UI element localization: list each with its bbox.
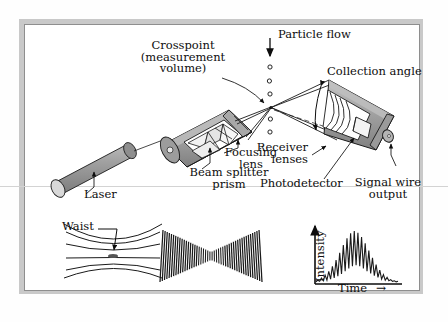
label-crosspoint: Crosspoint(measurementvolume) xyxy=(124,40,242,75)
fringe-line xyxy=(225,246,226,267)
fringe-line xyxy=(244,237,246,275)
fringe-line xyxy=(201,248,202,265)
fringe-line xyxy=(223,247,224,266)
fringe-line xyxy=(187,242,188,271)
label-waist: Waist xyxy=(62,221,94,233)
label-signal-wire-output: Signal wireoutput xyxy=(350,177,426,200)
fringe-line xyxy=(176,237,178,275)
label-laser: Laser xyxy=(84,189,117,201)
fringe-line xyxy=(233,242,234,271)
fringe-line xyxy=(192,244,193,269)
fringe-line xyxy=(183,240,185,272)
fringe-line xyxy=(196,246,197,267)
leader-crosspoint xyxy=(222,78,264,103)
label-photodetector: Photodetector xyxy=(260,178,343,190)
figure-page: Crosspoint(measurementvolume) Particle f… xyxy=(0,0,448,322)
fringe-line xyxy=(246,236,248,276)
fringe-line xyxy=(178,238,180,274)
fringe-line xyxy=(231,243,232,270)
fringe-line xyxy=(221,248,222,265)
label-collection-angle: Collection angle xyxy=(327,66,422,78)
signal-plot xyxy=(315,226,402,284)
fringe-line xyxy=(199,247,200,266)
fringe-line xyxy=(238,240,240,272)
receiver-housing xyxy=(323,80,395,150)
fringe-line xyxy=(240,239,242,273)
label-intensity-axis: Intensity xyxy=(313,231,327,282)
particle-flow-stream xyxy=(267,38,272,134)
label-particle-flow: Particle flow xyxy=(278,29,351,41)
fringe-line xyxy=(185,241,187,271)
fringe-line xyxy=(242,238,244,274)
fringe-line xyxy=(236,241,238,271)
fringe-line xyxy=(189,243,190,270)
fringe-line xyxy=(227,245,228,268)
fringe-line xyxy=(194,245,195,268)
doppler-burst-trace xyxy=(316,231,398,282)
fringe-line xyxy=(229,244,230,269)
fringe-inset xyxy=(160,230,262,282)
laser-beam-line xyxy=(134,140,163,151)
fringe-line xyxy=(174,236,176,276)
time-axis-arrow: → xyxy=(376,282,386,294)
fringe-line xyxy=(180,239,182,273)
main-diagram: Crosspoint(measurementvolume) Particle f… xyxy=(24,24,418,289)
label-receiver-lenses: Receiverlenses xyxy=(246,142,308,165)
label-time-axis: Time xyxy=(338,283,367,295)
